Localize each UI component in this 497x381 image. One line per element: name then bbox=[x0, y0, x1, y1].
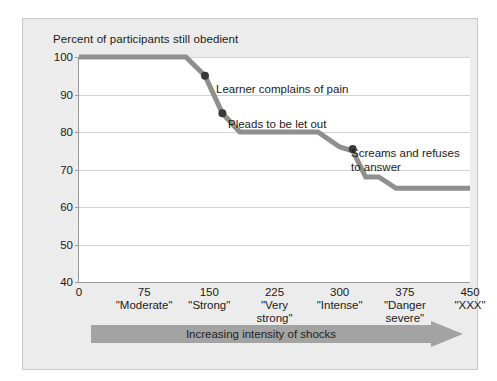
ytick-label-100: 100 bbox=[54, 51, 73, 63]
xtick-225: 225 "Very strong" bbox=[256, 282, 292, 325]
xtick-75: 75 "Moderate" bbox=[116, 282, 173, 312]
marker-dot-1 bbox=[218, 109, 226, 117]
chart-figure: Percent of participants still obedient 1… bbox=[22, 18, 478, 370]
xtick-value-450: 450 bbox=[454, 286, 485, 299]
xtick-150: 150 "Strong" bbox=[188, 282, 230, 312]
annotation-pleads: Pleads to be let out bbox=[228, 118, 326, 132]
xtick-value-375: 375 bbox=[384, 286, 426, 299]
ytick-label-40: 40 bbox=[60, 276, 73, 288]
xtick-450: 450 "XXX" bbox=[454, 282, 485, 312]
xtick-name-300: "Intense" bbox=[317, 299, 363, 312]
xtick-name-75: "Moderate" bbox=[116, 299, 173, 312]
ytick-label-70: 70 bbox=[60, 164, 73, 176]
xtick-name-450: "XXX" bbox=[454, 299, 485, 312]
annotation-screams: Screams and refuses to answer bbox=[351, 147, 460, 174]
xtick-name-150: "Strong" bbox=[188, 299, 230, 312]
intensity-arrow: Increasing intensity of shocks bbox=[91, 321, 463, 347]
xtick-value-300: 300 bbox=[317, 286, 363, 299]
ytick-label-60: 60 bbox=[60, 201, 73, 213]
xtick-300: 300 "Intense" bbox=[317, 282, 363, 312]
xtick-value-0: 0 bbox=[76, 286, 82, 299]
arrow-label: Increasing intensity of shocks bbox=[91, 321, 431, 347]
ytick-label-50: 50 bbox=[60, 239, 73, 251]
marker-dot-0 bbox=[201, 72, 209, 80]
chart-title: Percent of participants still obedient bbox=[53, 33, 238, 45]
xtick-value-75: 75 bbox=[116, 286, 173, 299]
ytick-label-90: 90 bbox=[60, 89, 73, 101]
xtick-0: 0 bbox=[76, 282, 82, 299]
ytick-label-80: 80 bbox=[60, 126, 73, 138]
xtick-value-225: 225 bbox=[256, 286, 292, 299]
annotation-learner-complains: Learner complains of pain bbox=[216, 83, 348, 97]
plot-area: 100 90 80 70 60 50 40 0 75 "Moderate" 15… bbox=[78, 57, 470, 283]
xtick-value-150: 150 bbox=[188, 286, 230, 299]
xtick-375: 375 "Danger severe" bbox=[384, 282, 426, 325]
